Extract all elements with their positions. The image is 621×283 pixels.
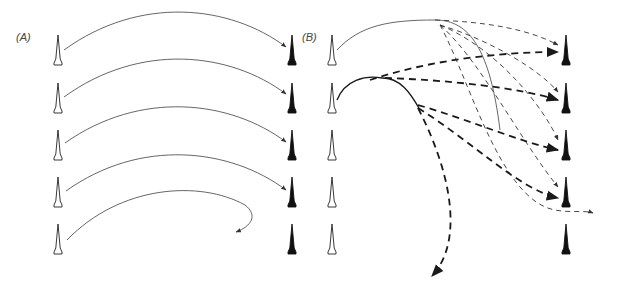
panel-b-source-tip-icon	[328, 130, 336, 160]
panel-a-source-tip-icon	[54, 83, 62, 113]
panel-a-source-tip-icon	[54, 35, 62, 65]
panel-a-target-tip-icon	[288, 83, 296, 113]
panel-b-source-tip-icon	[328, 177, 336, 207]
panel-b-source-tip-icon	[328, 35, 336, 65]
panel-a-target-tip-icon	[288, 177, 296, 207]
panel-a-target-tip-icon	[288, 35, 296, 65]
panel-b-trajectory-7	[385, 78, 558, 100]
panel-b-trajectory-1	[337, 20, 435, 50]
panel-b-target-tip-icon	[562, 83, 570, 113]
panel-b-target-tip-icon	[562, 35, 570, 65]
panel-b-trajectory-12	[418, 105, 558, 150]
panel-a-source-tip-icon	[54, 177, 62, 207]
panel-b-target-tip-icon	[562, 224, 570, 254]
panel-b-trajectory-13	[418, 108, 558, 198]
panel-a-trajectory-5	[67, 191, 252, 240]
panel-a-source-tip-icon	[54, 130, 62, 160]
panel-b-target-tip-icon	[562, 130, 570, 160]
panel-a-trajectory-3	[65, 107, 286, 143]
panel-b-trajectory-3	[337, 77, 382, 100]
panel-b-trajectory-14	[418, 108, 451, 276]
panel-a-target-tip-icon	[288, 224, 296, 254]
panel-a-trajectory-4	[66, 155, 286, 191]
panel-a-trajectory-2	[64, 59, 286, 97]
panel-b-trajectory-4	[382, 78, 420, 110]
panel-b-source-tip-icon	[328, 83, 336, 113]
panel-b-source-tip-icon	[328, 224, 336, 254]
panel-a-trajectory-1	[64, 12, 286, 50]
panel-b-target-tip-icon	[562, 177, 570, 207]
trajectory-diagram	[0, 0, 621, 283]
figure: (A) (B)	[0, 0, 621, 283]
trajectories-group	[64, 12, 593, 276]
panel-a-source-tip-icon	[54, 224, 62, 254]
panel-a-target-tip-icon	[288, 130, 296, 160]
panel-b-trajectory-6	[370, 52, 558, 80]
